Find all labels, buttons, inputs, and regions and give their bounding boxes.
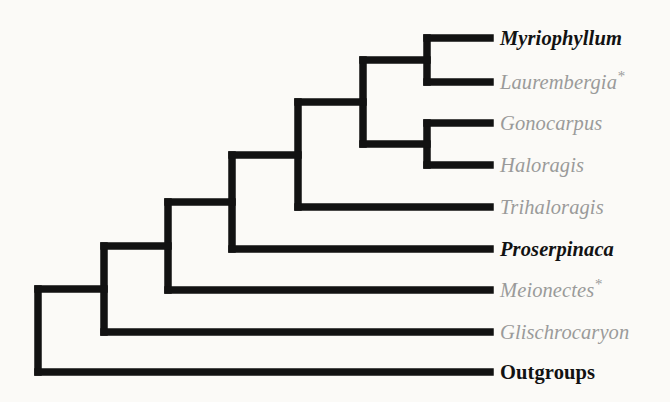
taxon-label-gonocarpus: Gonocarpus <box>500 113 602 134</box>
taxon-label-proserpinaca: Proserpinaca <box>500 239 614 260</box>
taxon-name: Proserpinaca <box>500 238 614 260</box>
phylogenetic-tree-figure: MyriophyllumLaurembergia*GonocarpusHalor… <box>0 0 670 402</box>
branch-glischrocaryon <box>100 328 494 336</box>
branch-myriophyllum <box>423 34 494 42</box>
stem-myriophyllum-laurembergia <box>359 56 431 64</box>
branch-trihaloragis <box>294 203 494 211</box>
stem-plus-proserpinaca <box>164 198 236 206</box>
branch-laurembergia <box>423 78 494 86</box>
stem-plus-meionectes <box>100 242 172 250</box>
branch-haloragis <box>423 161 494 169</box>
taxon-label-laurembergia: Laurembergia* <box>500 72 625 93</box>
taxon-name: Haloragis <box>500 154 584 176</box>
branch-meionectes <box>164 286 494 294</box>
taxon-name: Laurembergia <box>500 71 617 93</box>
taxon-label-glischrocaryon: Glischrocaryon <box>500 322 629 343</box>
stem-gonocarpus-haloragis <box>359 140 431 148</box>
taxon-asterisk-marker: * <box>617 68 625 84</box>
branch-group <box>34 34 494 376</box>
taxon-label-myriophyllum: Myriophyllum <box>500 28 622 49</box>
taxon-label-trihaloragis: Trihaloragis <box>500 197 604 218</box>
taxon-name: Glischrocaryon <box>500 321 629 343</box>
taxon-name: Outgroups <box>500 361 595 383</box>
stem-plus-trihaloragis <box>228 151 302 159</box>
taxon-label-haloragis: Haloragis <box>500 155 584 176</box>
node-root <box>34 285 42 376</box>
taxon-name: Trihaloragis <box>500 196 604 218</box>
taxon-name: Myriophyllum <box>500 27 622 49</box>
taxon-asterisk-marker: * <box>594 276 602 292</box>
stem-core-haloragoideae <box>294 98 367 106</box>
taxon-label-meionectes: Meionectes* <box>500 280 602 301</box>
taxon-name: Meionectes <box>500 279 594 301</box>
stem-plus-glischrocaryon <box>34 285 108 293</box>
taxon-label-outgroups: Outgroups <box>500 362 595 383</box>
branch-proserpinaca <box>228 245 494 253</box>
branch-outgroups <box>34 368 494 376</box>
branch-gonocarpus <box>423 119 494 127</box>
taxon-name: Gonocarpus <box>500 112 602 134</box>
